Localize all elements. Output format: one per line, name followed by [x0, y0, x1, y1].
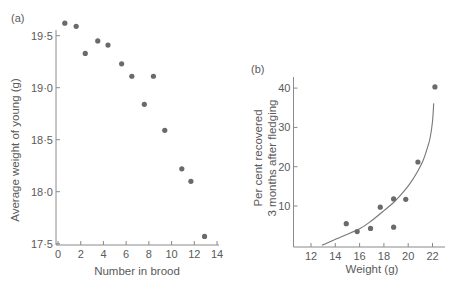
y-tick-label: 17·5 — [31, 238, 53, 250]
figure: (a) 17·518·018·519·019·5 02468101214 Num… — [0, 0, 456, 289]
panel-b-y-title-line2: 3 months after fledging — [266, 100, 278, 217]
panel-a-tag: (a) — [11, 12, 24, 24]
data-point — [162, 128, 167, 133]
x-tick-label: 0 — [55, 248, 61, 260]
data-point — [95, 38, 100, 43]
data-point — [355, 229, 360, 234]
panel-b-y-title-line1: Per cent recovered — [252, 109, 264, 206]
data-point — [74, 24, 79, 29]
data-point — [62, 21, 67, 26]
x-tick-label: 12 — [188, 248, 200, 260]
data-point — [105, 42, 110, 47]
x-tick-label: 8 — [146, 248, 152, 260]
y-tick-label: 20 — [278, 161, 290, 173]
data-point — [378, 205, 383, 210]
panel-a-y-title: Average weight of young (g) — [9, 78, 21, 222]
panel-b-x-ticks: 121416182022 — [305, 243, 439, 262]
panel-a-data-points — [62, 21, 207, 239]
x-tick-label: 16 — [353, 250, 365, 262]
data-point — [151, 74, 156, 79]
data-point — [391, 196, 396, 201]
x-tick-label: 4 — [100, 248, 106, 260]
data-point — [202, 234, 207, 239]
panel-b-y-ticks: 10203040 — [278, 82, 297, 212]
x-tick-label: 12 — [305, 250, 317, 262]
data-point — [391, 225, 396, 230]
data-point — [415, 159, 420, 164]
data-point — [432, 84, 437, 89]
x-tick-label: 6 — [123, 248, 129, 260]
data-point — [83, 51, 88, 56]
y-tick-label: 10 — [278, 200, 290, 212]
panel-a: (a) 17·518·018·519·019·5 02468101214 Num… — [9, 12, 223, 277]
data-point — [179, 166, 184, 171]
y-tick-label: 19·0 — [31, 82, 53, 94]
x-tick-label: 18 — [378, 250, 390, 262]
y-tick-label: 18·0 — [31, 186, 53, 198]
x-tick-label: 14 — [211, 248, 223, 260]
panel-b-fitted-curve — [322, 103, 434, 245]
data-point — [403, 197, 408, 202]
data-point — [142, 102, 147, 107]
y-tick-label: 19·5 — [31, 30, 53, 42]
x-tick-label: 2 — [78, 248, 84, 260]
y-tick-label: 30 — [278, 121, 290, 133]
data-point — [188, 179, 193, 184]
data-point — [368, 226, 373, 231]
x-tick-label: 14 — [329, 250, 341, 262]
x-tick-label: 20 — [402, 250, 414, 262]
data-point — [344, 221, 349, 226]
panel-b-x-title: Weight (g) — [346, 263, 399, 275]
panel-a-x-title: Number in brood — [94, 265, 180, 277]
x-tick-label: 22 — [426, 250, 438, 262]
y-tick-label: 18·5 — [31, 134, 53, 146]
panel-a-x-ticks: 02468101214 — [55, 241, 223, 260]
data-point — [129, 74, 134, 79]
data-point — [119, 61, 124, 66]
x-tick-label: 10 — [165, 248, 177, 260]
panel-b-tag: (b) — [251, 63, 264, 75]
panel-b: (b) 10203040 121416182022 Weight (g) Per… — [251, 63, 445, 275]
y-tick-label: 40 — [278, 82, 290, 94]
